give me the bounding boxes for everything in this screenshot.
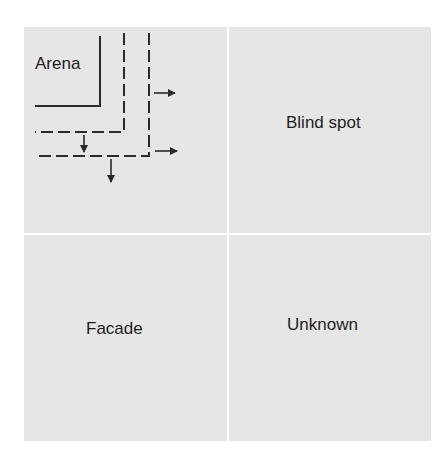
label-blind-spot: Blind spot — [286, 113, 361, 133]
quadrant-grid: Arena Blind spot Facade Unknown — [24, 27, 431, 441]
label-arena: Arena — [35, 54, 80, 74]
label-unknown: Unknown — [287, 315, 358, 335]
quadrant-unknown — [229, 235, 431, 441]
label-facade: Facade — [86, 319, 143, 339]
